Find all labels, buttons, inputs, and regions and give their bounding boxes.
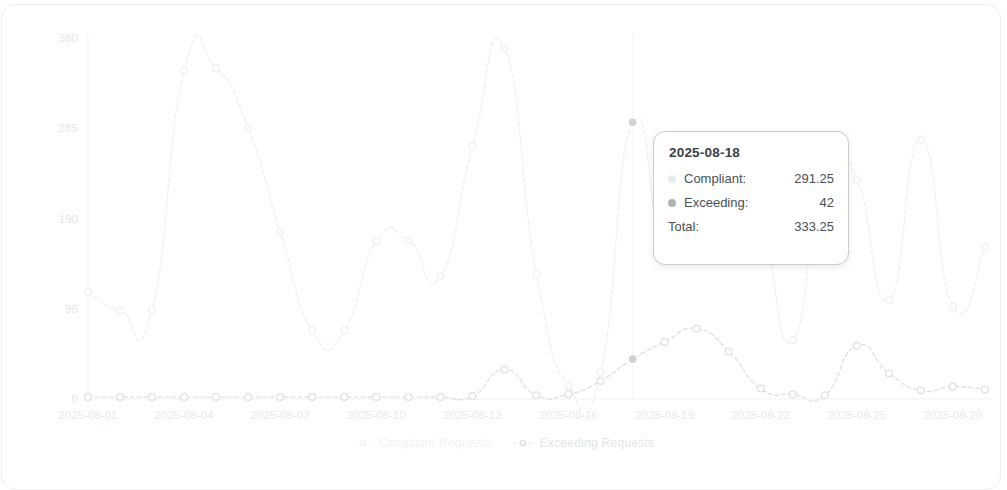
data-point-marker[interactable] [277,228,284,235]
y-tick-labels: 095190285380 [59,32,78,405]
x-tick-label: 2025-08-07 [251,409,310,421]
data-point-marker[interactable] [565,391,572,398]
data-point-marker[interactable] [469,143,476,150]
legend-item-exceeding[interactable]: Exceeding Requests [513,436,654,450]
data-point-marker[interactable] [85,289,92,296]
data-point-marker[interactable] [533,392,540,399]
x-tick-label: 2025-08-01 [59,409,118,421]
series-line [88,36,985,418]
data-point-marker[interactable] [149,394,156,401]
series-line [88,328,985,401]
data-point-marker[interactable] [853,342,860,349]
data-point-marker[interactable] [885,370,892,377]
tooltip-row-compliant: Compliant: 291.25 [668,171,834,186]
tooltip-row-total: Total: 333.25 [668,219,834,234]
data-point-marker[interactable] [597,369,604,376]
data-point-marker[interactable] [213,65,220,72]
x-tick-label: 2025-08-25 [827,409,886,421]
data-point-marker[interactable] [821,392,828,399]
x-tick-label: 2025-08-22 [731,409,790,421]
tooltip-total-label: Total: [668,219,794,234]
tooltip-total-value: 333.25 [794,219,834,234]
x-tick-label: 2025-08-19 [635,409,694,421]
data-point-marker[interactable] [341,327,348,334]
data-point-marker[interactable] [309,327,316,334]
data-point-marker[interactable] [373,394,380,401]
data-point-marker[interactable] [853,176,860,183]
data-point-marker[interactable] [149,306,156,313]
data-point-marker[interactable] [405,237,412,244]
data-point-marker[interactable] [469,393,476,400]
data-point-marker[interactable] [85,394,92,401]
data-point-marker[interactable] [117,394,124,401]
tooltip-compliant-label: Compliant: [684,171,794,186]
data-point-marker[interactable] [661,339,668,346]
data-point-marker[interactable] [950,303,957,310]
data-point-marker[interactable] [277,394,284,401]
y-tick-label: 95 [65,303,78,315]
data-point-marker[interactable] [245,125,252,132]
legend-marker-exceeding-icon [513,438,533,448]
tooltip-compliant-value: 291.25 [794,171,834,186]
data-point-marker[interactable] [950,383,957,390]
chart-tooltip: 2025-08-18 Compliant: 291.25 Exceeding: … [653,131,849,265]
compliant-series-dot-icon [668,175,676,183]
series-exceeding-requests[interactable] [85,325,989,401]
x-tick-labels: 2025-08-012025-08-042025-08-072025-08-10… [59,409,983,421]
data-point-marker[interactable] [982,386,989,393]
x-tick-label: 2025-08-04 [155,409,214,421]
legend-label-exceeding: Exceeding Requests [539,436,654,450]
data-point-marker[interactable] [501,366,508,373]
series-compliant-requests[interactable] [85,36,989,418]
data-point-marker[interactable] [437,394,444,401]
data-point-marker[interactable] [918,387,925,394]
data-point-marker[interactable] [597,378,604,385]
data-point-marker[interactable] [885,297,892,304]
y-tick-label: 380 [59,32,78,44]
data-point-marker[interactable] [693,325,700,332]
data-point-marker[interactable] [405,394,412,401]
y-tick-label: 285 [59,122,78,134]
legend-marker-compliant-icon [353,438,373,448]
data-point-marker[interactable] [725,348,732,355]
data-point-marker[interactable] [117,307,124,314]
exceeding-series-dot-icon [668,199,676,207]
data-point-marker[interactable] [501,45,508,52]
data-point-marker[interactable] [533,271,540,278]
data-point-marker[interactable] [341,394,348,401]
tooltip-exceeding-value: 42 [820,195,834,210]
data-point-marker[interactable] [565,382,572,389]
x-tick-label: 2025-08-16 [539,409,598,421]
data-point-marker[interactable] [918,136,925,143]
x-tick-label: 2025-08-10 [347,409,406,421]
chart-legend[interactable]: Compliant Requests Exceeding Requests [0,436,1007,450]
tooltip-date: 2025-08-18 [669,145,834,160]
y-tick-label: 0 [72,393,78,405]
data-point-marker[interactable] [757,385,764,392]
legend-label-compliant: Compliant Requests [379,436,492,450]
hover-point-marker [628,355,637,364]
x-tick-label: 2025-08-13 [443,409,502,421]
y-tick-label: 190 [59,213,78,225]
hover-point-marker [628,118,637,127]
data-point-marker[interactable] [982,244,989,251]
data-point-marker[interactable] [245,394,252,401]
tooltip-row-exceeding: Exceeding: 42 [668,195,834,210]
legend-item-compliant[interactable]: Compliant Requests [353,436,492,450]
data-point-marker[interactable] [437,273,444,280]
data-point-marker[interactable] [181,394,188,401]
data-point-marker[interactable] [373,238,380,245]
data-point-marker[interactable] [181,67,188,74]
tooltip-exceeding-label: Exceeding: [684,195,820,210]
data-point-marker[interactable] [213,394,220,401]
data-point-marker[interactable] [789,391,796,398]
data-point-marker[interactable] [309,394,316,401]
data-point-marker[interactable] [789,337,796,344]
x-tick-label: 2025-08-28 [924,409,983,421]
